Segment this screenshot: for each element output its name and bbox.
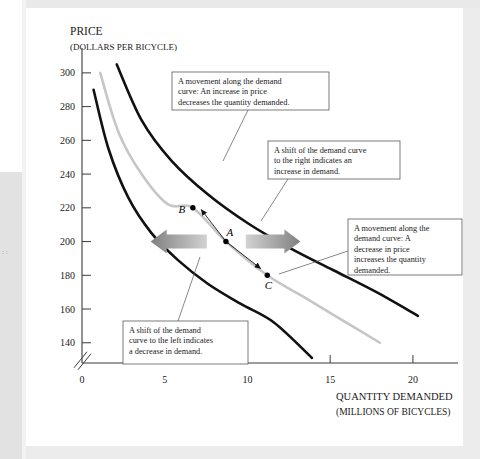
bottom-margin-strip xyxy=(26,446,467,459)
y-tick-label: 200 xyxy=(60,236,75,247)
right-margin-strip xyxy=(463,8,480,459)
x-tick-label: 5 xyxy=(162,374,167,385)
y-tick-label: 300 xyxy=(60,67,75,78)
margin-mark: : : xyxy=(2,248,8,256)
x-tick-label: 15 xyxy=(325,374,335,385)
callout-line: A shift of the demand xyxy=(129,326,202,335)
y-tick-label: 240 xyxy=(60,169,75,180)
axis-break-slash-2 xyxy=(78,354,91,370)
callout-line: increase in demand. xyxy=(274,167,340,176)
point-label-a: A xyxy=(226,226,234,238)
shift-left-arrow xyxy=(151,230,207,254)
point-label-b: B xyxy=(178,203,185,215)
callout-line: to the right indicates an xyxy=(274,156,353,165)
y-axis-title: PRICE xyxy=(70,25,103,37)
callout-line: a decrease in demand. xyxy=(129,347,202,356)
x-tick-labels: 05101520 xyxy=(80,374,418,385)
x-tick-label: 0 xyxy=(80,374,85,385)
axis-ticks xyxy=(82,73,413,363)
demand-curve-1 xyxy=(94,90,312,358)
leader-line-callout-shift-right xyxy=(261,179,288,221)
callout-line: curve: An increase in price xyxy=(178,87,267,96)
y-tick-label: 280 xyxy=(60,101,75,112)
figure-card: 140160180200220240260280300 05101520 BAC… xyxy=(26,8,463,446)
callout-line: decreases the quantity demanded. xyxy=(178,98,290,107)
y-tick-label: 220 xyxy=(60,202,75,213)
callout-line: decrease in price xyxy=(354,245,410,254)
y-axis-subtitle: (DOLLARS PER BICYCLE) xyxy=(70,42,177,52)
callout-line: increases the quantity xyxy=(354,255,427,264)
page-wrapper: : : 140160180200220240260280300 xyxy=(0,0,480,459)
callout-line: curve to the left indicates xyxy=(129,336,213,345)
callout-boxes: A movement along the demandcurve: An inc… xyxy=(123,72,462,364)
point-a xyxy=(223,239,228,244)
demand-curve-chart: 140160180200220240260280300 05101520 BAC… xyxy=(26,8,463,446)
point-label-c: C xyxy=(265,279,273,291)
point-c xyxy=(265,273,270,278)
callout-line: A shift of the demand curve xyxy=(274,146,367,155)
left-gutter-top xyxy=(0,0,22,172)
y-tick-label: 160 xyxy=(60,304,75,315)
y-tick-labels: 140160180200220240260280300 xyxy=(60,67,75,348)
leader-line-callout-movement-up xyxy=(223,110,248,161)
callout-line: A movement along the xyxy=(354,224,430,233)
point-b xyxy=(190,205,195,210)
x-axis-title: QUANTITY DEMANDED xyxy=(336,391,453,402)
x-tick-label: 10 xyxy=(242,374,252,385)
y-tick-label: 140 xyxy=(60,337,75,348)
axis-break-slash-1 xyxy=(74,352,87,368)
x-tick-label: 20 xyxy=(408,374,418,385)
left-gutter-shade xyxy=(0,172,22,459)
callout-line: demanded. xyxy=(354,266,390,275)
leader-line-callout-movement-down xyxy=(279,251,348,274)
leader-line-callout-shift-left xyxy=(178,257,200,321)
x-axis-subtitle: (MILLIONS OF BICYCLES) xyxy=(336,407,451,418)
callout-line: A movement along the demand xyxy=(178,77,283,86)
y-tick-label: 260 xyxy=(60,135,75,146)
y-tick-label: 180 xyxy=(60,270,75,281)
callout-line: demand curve: A xyxy=(354,234,411,243)
